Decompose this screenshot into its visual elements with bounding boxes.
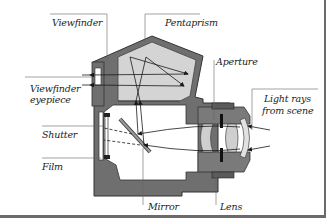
label-shutter: Shutter bbox=[42, 129, 77, 140]
label-viewfinder: Viewfinder bbox=[52, 17, 102, 28]
label-viewfinder-eyepiece-line2: eyepiece bbox=[30, 94, 71, 105]
label-light-rays-line2: from scene bbox=[262, 105, 313, 116]
label-light-rays-line1: Light rays bbox=[264, 93, 311, 104]
label-pentaprism: Pentaprism bbox=[165, 17, 218, 28]
label-mirror: Mirror bbox=[148, 201, 179, 212]
lens-element-mid bbox=[226, 124, 239, 152]
film-plate bbox=[99, 112, 103, 160]
label-film: Film bbox=[42, 161, 63, 172]
label-lens: Lens bbox=[220, 201, 242, 212]
shutter-plate bbox=[105, 114, 108, 158]
label-viewfinder-eyepiece-line1: Viewfinder bbox=[30, 83, 80, 94]
camera-interior bbox=[104, 105, 198, 180]
label-aperture: Aperture bbox=[216, 56, 258, 67]
